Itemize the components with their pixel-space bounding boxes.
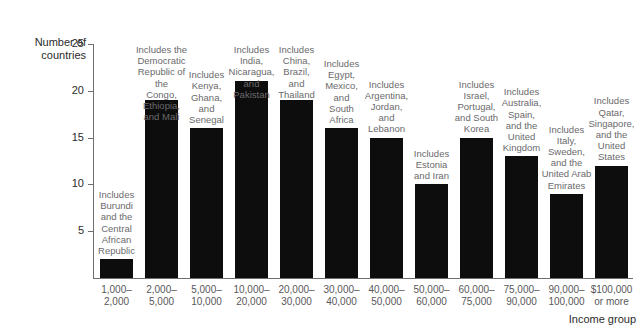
- bar[interactable]: [145, 100, 178, 278]
- x-axis-tick-label: $100,000 or more: [585, 284, 638, 308]
- bar[interactable]: [100, 259, 133, 278]
- y-axis-tick-label: 20: [58, 84, 84, 96]
- bar[interactable]: [280, 100, 313, 278]
- bar-group[interactable]: Includes Kenya, Ghana, and Senegal: [184, 44, 229, 278]
- bar-group[interactable]: Includes Australia, Spain, and the Unite…: [499, 44, 544, 278]
- bar-group[interactable]: Includes Argentina, Jordan, and Lebanon: [364, 44, 409, 278]
- y-axis-tick-label: 10: [58, 177, 84, 189]
- y-axis-tick-label: 25: [58, 37, 84, 49]
- bar[interactable]: [370, 138, 403, 278]
- y-axis-tick-label: 15: [58, 131, 84, 143]
- bar[interactable]: [550, 194, 583, 278]
- bar-group[interactable]: Includes Qatar, Singapore, and the Unite…: [589, 44, 634, 278]
- bar-group[interactable]: Includes Italy, Sweden, and the United A…: [544, 44, 589, 278]
- bar-group[interactable]: Includes Egypt, Mexico, and South Africa: [319, 44, 364, 278]
- bar[interactable]: [505, 156, 538, 278]
- bar[interactable]: [235, 81, 268, 278]
- bar-annotation: Includes Qatar, Singapore, and the Unite…: [585, 95, 638, 162]
- bar-group[interactable]: Includes Israel, Portugal, and South Kor…: [454, 44, 499, 278]
- bar-annotation: Includes Estonia and Iran: [405, 148, 458, 182]
- bar-group[interactable]: Includes Burundi and the Central African…: [94, 44, 139, 278]
- bar-group[interactable]: Includes the Democratic Republic of the …: [139, 44, 184, 278]
- bar-annotation: Includes Argentina, Jordan, and Lebanon: [360, 79, 413, 135]
- bar-group[interactable]: Includes Estonia and Iran: [409, 44, 454, 278]
- bar[interactable]: [325, 128, 358, 278]
- bar[interactable]: [595, 166, 628, 278]
- bar-group[interactable]: Includes India, Nicaragua, and Pakistan: [229, 44, 274, 278]
- x-axis-title: Income group: [569, 313, 636, 325]
- bar-chart-figure: Number of countries 510152025 Includes B…: [0, 0, 642, 331]
- bar-annotation: Includes Burundi and the Central African…: [90, 189, 143, 256]
- bar-group[interactable]: Includes China, Brazil, and Thailand: [274, 44, 319, 278]
- plot-area: Includes Burundi and the Central African…: [94, 44, 633, 278]
- bar[interactable]: [460, 138, 493, 278]
- bar[interactable]: [190, 128, 223, 278]
- x-axis-line: [93, 278, 633, 279]
- bar[interactable]: [415, 184, 448, 278]
- y-axis-tick-label: 5: [58, 224, 84, 236]
